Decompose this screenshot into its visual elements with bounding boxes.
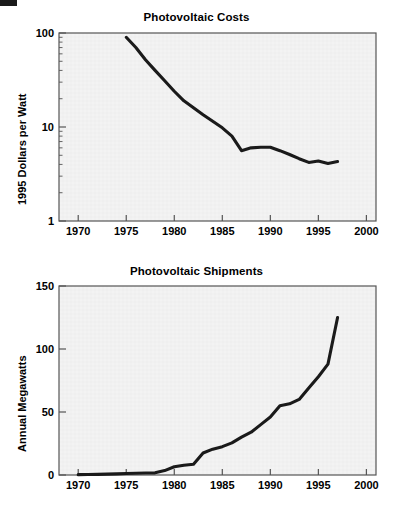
- y-tick-label: 10: [42, 121, 54, 133]
- x-tick-label: 2000: [354, 479, 378, 491]
- plot-area-costs: 1970197519801985199019952000110100: [0, 0, 393, 254]
- x-tick-label: 1980: [162, 225, 186, 237]
- x-tick-label: 2000: [354, 225, 378, 237]
- x-tick-label: 1985: [210, 479, 234, 491]
- x-tick-label: 1995: [306, 225, 330, 237]
- x-tick-label: 1980: [162, 479, 186, 491]
- y-tick-label: 1: [48, 215, 54, 227]
- x-tick-label: 1995: [306, 479, 330, 491]
- y-tick-label: 100: [36, 27, 54, 39]
- chart-photovoltaic-shipments: Photovoltaic Shipments Annual Megawatts …: [0, 254, 393, 508]
- chart-photovoltaic-costs: Photovoltaic Costs 1995 Dollars per Watt…: [0, 0, 393, 254]
- x-tick-label: 1970: [66, 479, 90, 491]
- x-tick-label: 1990: [258, 225, 282, 237]
- y-tick-label: 0: [48, 469, 54, 481]
- y-tick-label: 50: [42, 406, 54, 418]
- x-tick-label: 1985: [210, 225, 234, 237]
- y-tick-label: 100: [36, 343, 54, 355]
- x-tick-label: 1990: [258, 479, 282, 491]
- plot-area-shipments: 1970197519801985199019952000050100150: [0, 254, 393, 508]
- x-tick-label: 1975: [114, 479, 138, 491]
- x-tick-label: 1975: [114, 225, 138, 237]
- y-tick-label: 150: [36, 280, 54, 292]
- x-tick-label: 1970: [66, 225, 90, 237]
